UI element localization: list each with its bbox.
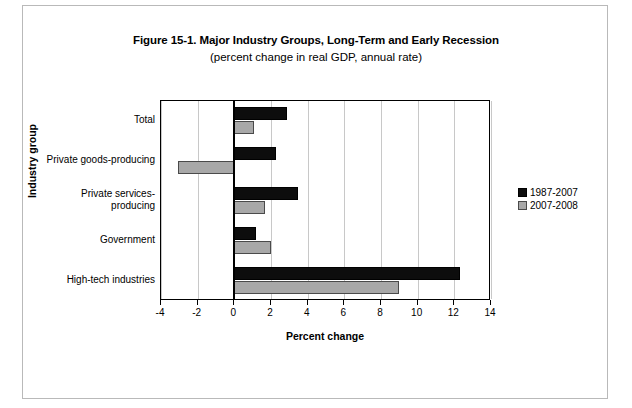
x-tick-mark	[490, 300, 491, 305]
bar	[234, 201, 265, 214]
zero-line	[233, 101, 235, 299]
legend-swatch-icon	[518, 201, 527, 210]
bar	[178, 161, 235, 174]
legend-entry: 2007-2008	[518, 199, 578, 212]
bar-group	[161, 141, 489, 181]
x-tick-mark	[380, 300, 381, 305]
x-tick-mark	[417, 300, 418, 305]
legend-label: 1987-2007	[530, 186, 578, 199]
x-tick-mark	[270, 300, 271, 305]
bar-group	[161, 261, 489, 301]
y-tick-label: Total	[0, 114, 155, 126]
title-block: Figure 15-1. Major Industry Groups, Long…	[0, 32, 632, 65]
plot-area	[160, 100, 490, 300]
y-tick-label: Private goods-producing	[0, 154, 155, 166]
bar-group	[161, 221, 489, 261]
x-tick-mark	[160, 300, 161, 305]
x-tick-mark	[343, 300, 344, 305]
bar	[234, 241, 271, 254]
legend-swatch-icon	[518, 188, 527, 197]
x-axis-title: Percent change	[160, 330, 490, 342]
gridline-14	[491, 101, 492, 299]
bar	[234, 281, 399, 294]
x-tick-label: 14	[470, 307, 510, 318]
x-tick-label: 10	[397, 307, 437, 318]
x-tick-label: 12	[433, 307, 473, 318]
bar	[234, 187, 298, 200]
bar	[234, 267, 460, 280]
bar-group	[161, 181, 489, 221]
x-tick-label: 8	[360, 307, 400, 318]
x-tick-mark	[197, 300, 198, 305]
x-tick-label: -2	[177, 307, 217, 318]
bar	[234, 227, 256, 240]
x-tick-label: 0	[213, 307, 253, 318]
y-tick-label: High-tech industries	[0, 274, 155, 286]
bar	[234, 107, 287, 120]
x-tick-label: 2	[250, 307, 290, 318]
bar-group	[161, 101, 489, 141]
chart-title: Figure 15-1. Major Industry Groups, Long…	[0, 32, 632, 48]
legend-entry: 1987-2007	[518, 186, 578, 199]
bar	[234, 121, 254, 134]
chart-legend: 1987-20072007-2008	[518, 186, 578, 212]
x-tick-mark	[453, 300, 454, 305]
y-tick-label: Government	[0, 234, 155, 246]
x-tick-label: 4	[287, 307, 327, 318]
x-tick-label: 6	[323, 307, 363, 318]
x-tick-mark	[307, 300, 308, 305]
x-tick-label: -4	[140, 307, 180, 318]
bar	[234, 147, 276, 160]
x-tick-mark	[233, 300, 234, 305]
y-tick-label: Private services-producing	[0, 188, 155, 212]
legend-label: 2007-2008	[530, 199, 578, 212]
chart-subtitle: (percent change in real GDP, annual rate…	[0, 49, 632, 65]
